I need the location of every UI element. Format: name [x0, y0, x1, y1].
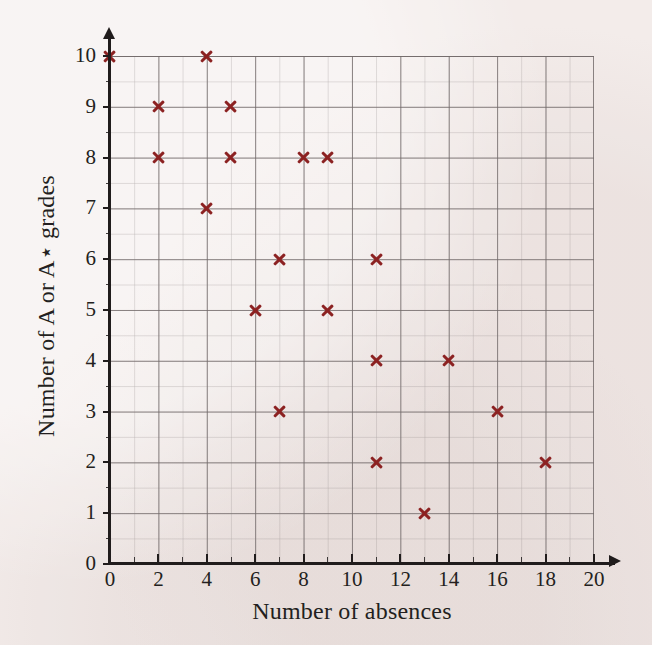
- x-axis-tick-label: 12: [380, 566, 420, 592]
- y-axis-minor-tick: [106, 284, 111, 285]
- y-axis-tick: [103, 55, 111, 57]
- x-axis-tick-label: 0: [90, 566, 130, 592]
- x-axis-minor-tick: [569, 557, 570, 562]
- x-axis-tick-label: 10: [332, 566, 372, 592]
- x-axis-tick: [545, 554, 547, 562]
- x-axis-minor-tick: [376, 557, 377, 562]
- y-axis-tick: [103, 360, 111, 362]
- y-axis-tick: [103, 411, 111, 413]
- x-axis-tick-label: 8: [284, 566, 324, 592]
- scatter-chart-figure: 02468101214161820 012345678910 Number of…: [0, 0, 652, 645]
- y-axis-minor-tick: [106, 132, 111, 133]
- x-axis-tick: [157, 554, 159, 562]
- y-axis-tick: [103, 106, 111, 108]
- grid-border: [110, 56, 594, 564]
- y-axis-minor-tick: [106, 335, 111, 336]
- x-axis-tick: [206, 554, 208, 562]
- y-axis-tick: [103, 258, 111, 260]
- y-axis-tick: [103, 563, 111, 565]
- x-axis-minor-tick: [424, 557, 425, 562]
- x-axis-tick: [254, 554, 256, 562]
- x-axis-tick: [496, 554, 498, 562]
- x-axis-minor-tick: [134, 557, 135, 562]
- x-axis-minor-tick: [279, 557, 280, 562]
- y-axis-title: Number of A or A⋆ grades: [32, 46, 60, 566]
- x-axis-tick: [448, 554, 450, 562]
- x-axis-tick: [351, 554, 353, 562]
- x-axis-minor-tick: [231, 557, 232, 562]
- y-axis-line: [108, 38, 111, 565]
- x-axis-tick-label: 18: [526, 566, 566, 592]
- x-axis-tick: [593, 554, 595, 562]
- y-axis-tick: [103, 309, 111, 311]
- y-axis-tick: [103, 461, 111, 463]
- plot-area: [110, 56, 594, 564]
- x-axis-tick: [109, 554, 111, 562]
- x-axis-tick: [399, 554, 401, 562]
- y-axis-minor-tick: [106, 233, 111, 234]
- y-axis-minor-tick: [106, 437, 111, 438]
- x-axis-minor-tick: [521, 557, 522, 562]
- x-axis-minor-tick: [473, 557, 474, 562]
- y-axis-minor-tick: [106, 538, 111, 539]
- x-axis-tick: [303, 554, 305, 562]
- y-axis-tick: [103, 207, 111, 209]
- y-axis-minor-tick: [106, 183, 111, 184]
- x-axis-tick-label: 4: [187, 566, 227, 592]
- x-axis-tick-label: 14: [429, 566, 469, 592]
- x-axis-tick-label: 20: [574, 566, 614, 592]
- x-axis-tick-label: 16: [477, 566, 517, 592]
- x-axis-title: Number of absences: [110, 598, 594, 625]
- x-axis-line: [110, 562, 615, 565]
- y-axis-minor-tick: [106, 81, 111, 82]
- y-axis-arrow-icon: [103, 27, 115, 39]
- y-axis-tick: [103, 157, 111, 159]
- x-axis-minor-tick: [182, 557, 183, 562]
- y-axis-tick: [103, 512, 111, 514]
- y-axis-minor-tick: [106, 487, 111, 488]
- x-axis-minor-tick: [327, 557, 328, 562]
- x-axis-tick-label: 2: [138, 566, 178, 592]
- y-axis-minor-tick: [106, 386, 111, 387]
- x-axis-tick-label: 6: [235, 566, 275, 592]
